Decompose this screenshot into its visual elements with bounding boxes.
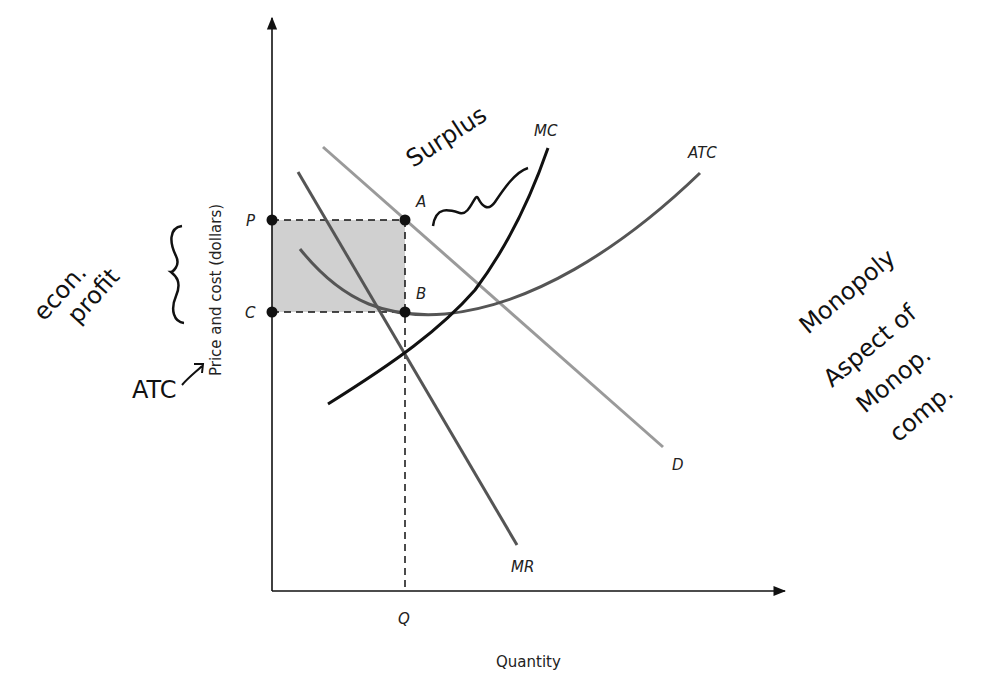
- handwritten-arrow-icon: [182, 364, 203, 385]
- point-a: [400, 215, 411, 226]
- label-atc: ATC: [687, 144, 717, 162]
- handwritten-atc: ATC: [132, 376, 177, 404]
- label-p: P: [246, 212, 256, 230]
- label-mc: MC: [534, 122, 558, 140]
- handwritten-squiggle: [433, 168, 528, 226]
- label-q: Q: [398, 610, 410, 628]
- label-b: B: [416, 285, 426, 303]
- marginal-revenue-curve: [298, 172, 517, 545]
- point-b: [400, 307, 411, 318]
- label-a: A: [415, 193, 426, 211]
- label-d: D: [672, 456, 684, 474]
- point-c: [267, 307, 278, 318]
- point-p: [267, 215, 278, 226]
- economic-profit-area: [272, 220, 405, 312]
- monopolistic-competition-chart: P C A B Q MC ATC D MR Quantity Price and…: [0, 0, 993, 697]
- y-axis-title: Price and cost (dollars): [207, 204, 225, 376]
- x-axis-title: Quantity: [496, 653, 561, 671]
- label-mr: MR: [511, 558, 534, 576]
- handwritten-surplus: Surplus: [401, 101, 492, 173]
- handwritten-brace: [171, 226, 184, 323]
- label-c: C: [245, 304, 256, 322]
